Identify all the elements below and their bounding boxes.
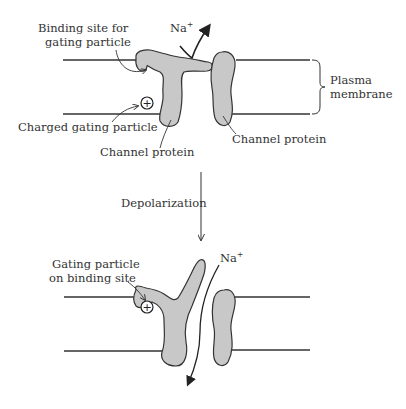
membrane-label-line2: membrane: [330, 87, 393, 101]
bottom-panel-open-channel: Na+ + Gating particle on binding site: [49, 250, 310, 384]
sodium-ion-label-bottom: Na+: [220, 250, 243, 265]
plus-icon: +: [142, 97, 151, 110]
membrane-brace: [312, 60, 325, 114]
channel-protein-right-open-shape: [213, 290, 236, 366]
gating-label-line2: on binding site: [49, 271, 136, 285]
binding-site-label-line2: gating particle: [45, 35, 131, 49]
channel-protein-right-label: Channel protein: [232, 132, 327, 146]
charged-particle-label: Charged gating particle: [18, 120, 158, 134]
depolarization-transition: Depolarization: [121, 172, 207, 240]
gating-particle-bound: +: [141, 301, 153, 314]
charged-gating-particle-top: +: [141, 97, 153, 110]
depolarization-label: Depolarization: [121, 196, 207, 210]
top-panel-closed-channel: Na+ Binding site for gating particle + C…: [18, 20, 393, 159]
channel-protein-right-shape: [211, 52, 235, 126]
membrane-label-line1: Plasma: [330, 73, 372, 87]
plus-icon: +: [142, 301, 151, 314]
sodium-channel-gating-diagram: Na+ Binding site for gating particle + C…: [0, 0, 406, 409]
channel-protein-left-shape: [136, 50, 213, 127]
gating-label-line1: Gating particle: [52, 257, 140, 271]
binding-site-label-line1: Binding site for: [38, 21, 129, 35]
sodium-ion-label-top: Na+: [170, 20, 193, 35]
channel-protein-left-label: Channel protein: [100, 145, 195, 159]
